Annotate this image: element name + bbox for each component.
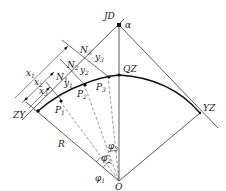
label-qz: QZ [123,64,137,74]
label-y1: y1 [63,78,73,89]
label-r: R [57,139,65,149]
jd-point [117,23,121,27]
label-n3: N3 [79,45,92,56]
p3-point [107,75,110,78]
label-y3: y3 [94,52,104,63]
label-x3: x3 [39,86,48,97]
radius-line-yz [119,113,200,181]
label-o: O [115,182,123,191]
yz-point [199,112,201,114]
label-p3: P3 [95,82,106,93]
label-phi3: φ3 [108,141,118,152]
label-jd: JD [102,11,115,21]
label-p1: P1 [54,105,65,116]
label-n2: N2 [66,60,79,71]
p2-point [83,83,86,86]
label-p2: P2 [76,89,87,100]
zy-point [36,109,40,113]
label-phi1: φ1 [95,173,105,184]
label-alpha: α [125,20,131,30]
tangent-offset-diagram: JD α QZ YZ ZY O R P1 P2 P3 N3 N2 N1 y3 y… [0,0,226,191]
label-yz: YZ [203,103,216,113]
qz-point [117,73,120,76]
label-y2: y2 [79,65,89,76]
label-zy: ZY [12,110,26,120]
p1-point [59,99,62,102]
